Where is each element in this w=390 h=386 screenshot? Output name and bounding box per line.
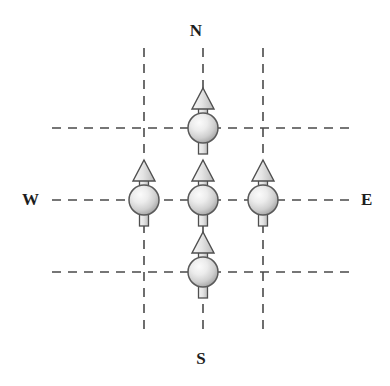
compass-label-west: W — [22, 191, 39, 208]
spin-arrowhead-icon — [252, 160, 274, 181]
spin-ball — [188, 113, 218, 143]
spin-arrowhead-icon — [192, 88, 214, 109]
spin-layer — [129, 88, 278, 298]
spin-arrowhead-icon — [192, 232, 214, 253]
compass-label-south: S — [196, 350, 206, 367]
spin-ball — [129, 185, 159, 215]
spin-arrowhead-icon — [192, 160, 214, 181]
spin-middle-right — [248, 160, 278, 226]
spin-bottom-center — [188, 232, 218, 298]
spin-ball — [188, 257, 218, 287]
spin-middle-center — [188, 160, 218, 226]
compass-label-east: E — [361, 191, 373, 208]
spin-ball — [188, 185, 218, 215]
spin-lattice-diagram — [0, 0, 390, 386]
spin-middle-left — [129, 160, 159, 226]
compass-label-north: N — [190, 22, 202, 39]
figure-root: N S W E — [0, 0, 390, 386]
spin-arrowhead-icon — [133, 160, 155, 181]
spin-top-center — [188, 88, 218, 154]
spin-ball — [248, 185, 278, 215]
